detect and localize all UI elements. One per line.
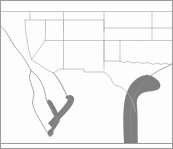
range-map-figure: [0, 0, 173, 149]
coastline-california-pacific: [1, 26, 32, 71]
boundary-nevada-arizona: [32, 41, 46, 60]
boundary-nevada-utah: [45, 20, 46, 41]
coastline-baja-west: [30, 71, 50, 137]
range-layer: [47, 75, 161, 144]
boundary-california-south: [32, 60, 54, 74]
boundary-texas-panhandle-oklahoma: [104, 61, 173, 65]
coastline-gulf-of-california-head: [31, 71, 46, 100]
map-canvas: [0, 0, 173, 149]
boundary-california-nevada: [25, 20, 32, 60]
boundary-newmexico-south: [64, 69, 105, 72]
frame-border: [1, 1, 173, 149]
map-frame: [1, 1, 173, 149]
boundary-mexico-interior: [54, 73, 67, 95]
boundary-arizona-south: [54, 69, 64, 73]
